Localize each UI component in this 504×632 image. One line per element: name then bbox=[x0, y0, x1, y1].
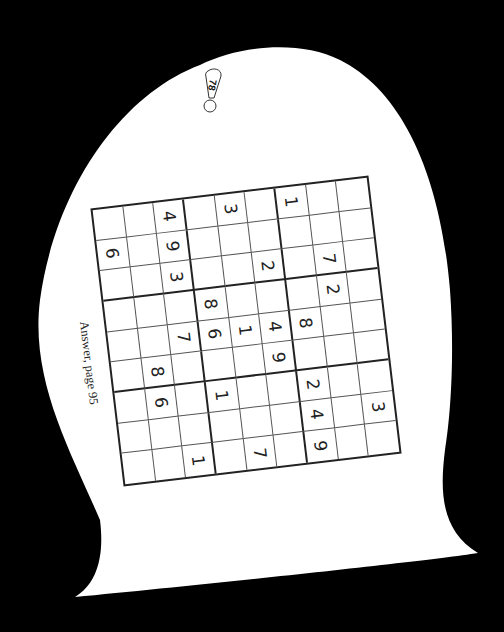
sudoku-cell[interactable] bbox=[122, 450, 156, 484]
sudoku-cell[interactable] bbox=[184, 196, 218, 230]
sudoku-cell[interactable] bbox=[118, 420, 152, 454]
sudoku-cell[interactable] bbox=[93, 207, 127, 241]
sudoku-cell[interactable]: 9 bbox=[157, 230, 191, 264]
sudoku-cell[interactable] bbox=[130, 264, 164, 298]
sudoku-cell[interactable] bbox=[127, 233, 161, 267]
sudoku-cell[interactable] bbox=[240, 405, 274, 439]
sudoku-cell[interactable]: 3 bbox=[161, 260, 195, 294]
sudoku-cell[interactable] bbox=[134, 294, 168, 328]
sudoku-cell[interactable] bbox=[245, 189, 279, 223]
cell-digit: 3 bbox=[166, 270, 187, 283]
sudoku-cell[interactable] bbox=[286, 276, 320, 310]
cell-digit: 2 bbox=[323, 283, 344, 296]
sudoku-cell[interactable] bbox=[179, 413, 213, 447]
sudoku-cell[interactable] bbox=[306, 181, 340, 215]
sudoku-cell[interactable]: 9 bbox=[263, 341, 297, 375]
sudoku-cell[interactable] bbox=[123, 203, 157, 237]
sudoku-cell[interactable] bbox=[218, 223, 252, 257]
sudoku-cell[interactable] bbox=[347, 269, 381, 303]
sudoku-cell[interactable]: 2 bbox=[297, 368, 331, 402]
sudoku-cell[interactable] bbox=[340, 208, 374, 242]
sudoku-cell[interactable] bbox=[351, 299, 385, 333]
sudoku-cell[interactable]: 4 bbox=[301, 398, 335, 432]
sudoku-cell[interactable] bbox=[283, 246, 317, 280]
sudoku-cell[interactable] bbox=[222, 253, 256, 287]
sudoku-cell[interactable] bbox=[267, 371, 301, 405]
cell-digit: 1 bbox=[188, 454, 209, 467]
sudoku-cell[interactable] bbox=[336, 178, 370, 212]
sudoku-cell[interactable] bbox=[111, 359, 145, 393]
sudoku-cell[interactable]: 6 bbox=[96, 237, 130, 271]
sudoku-cell[interactable] bbox=[164, 291, 198, 325]
cell-digit: 7 bbox=[249, 446, 270, 459]
sudoku-cell[interactable] bbox=[175, 382, 209, 416]
sudoku-cell[interactable] bbox=[213, 439, 247, 473]
cell-digit: 3 bbox=[220, 202, 241, 215]
sudoku-cell[interactable] bbox=[293, 337, 327, 371]
sudoku-cell[interactable]: 7 bbox=[168, 321, 202, 355]
cell-digit: 7 bbox=[173, 331, 194, 344]
sudoku-cell[interactable] bbox=[148, 416, 182, 450]
sudoku-cell[interactable]: 8 bbox=[195, 287, 229, 321]
cell-digit: 4 bbox=[265, 320, 286, 333]
sudoku-cell[interactable]: 9 bbox=[304, 428, 338, 462]
sudoku-cell[interactable] bbox=[324, 334, 358, 368]
sudoku-cell[interactable] bbox=[209, 409, 243, 443]
sudoku-cell[interactable] bbox=[279, 215, 313, 249]
sudoku-cell[interactable] bbox=[331, 394, 365, 428]
sudoku-cell[interactable]: 1 bbox=[206, 378, 240, 412]
cell-digit: 6 bbox=[102, 247, 123, 260]
cell-digit: 8 bbox=[201, 297, 222, 310]
cell-digit: 9 bbox=[310, 439, 331, 452]
sudoku-cell[interactable] bbox=[172, 352, 206, 386]
sudoku-cell[interactable] bbox=[270, 402, 304, 436]
sudoku-cell[interactable]: 8 bbox=[141, 355, 175, 389]
sudoku-cell[interactable]: 1 bbox=[275, 185, 309, 219]
sudoku-cell[interactable] bbox=[138, 325, 172, 359]
cell-digit: 1 bbox=[235, 324, 256, 337]
cell-digit: 7 bbox=[319, 252, 340, 265]
sudoku-cell[interactable] bbox=[107, 328, 141, 362]
sudoku-cell[interactable] bbox=[354, 330, 388, 364]
sudoku-cell[interactable]: 4 bbox=[259, 310, 293, 344]
cell-digit: 9 bbox=[163, 240, 184, 253]
cell-digit: 2 bbox=[303, 378, 324, 391]
sudoku-cell[interactable] bbox=[225, 283, 259, 317]
cell-digit: 1 bbox=[212, 389, 233, 402]
sudoku-cell[interactable] bbox=[152, 447, 186, 481]
sudoku-cell[interactable]: 3 bbox=[362, 391, 396, 425]
sudoku-cell[interactable]: 2 bbox=[252, 249, 286, 283]
sudoku-cell[interactable] bbox=[256, 280, 290, 314]
sudoku-cell[interactable] bbox=[202, 348, 236, 382]
sudoku-cell[interactable] bbox=[236, 375, 270, 409]
sudoku-cell[interactable] bbox=[274, 432, 308, 466]
sudoku-cell[interactable] bbox=[114, 389, 148, 423]
cell-digit: 1 bbox=[281, 195, 302, 208]
sudoku-cell[interactable] bbox=[328, 364, 362, 398]
sudoku-cell[interactable] bbox=[188, 226, 222, 260]
sudoku-cell[interactable] bbox=[191, 257, 225, 291]
sudoku-cell[interactable]: 7 bbox=[313, 242, 347, 276]
cell-digit: 6 bbox=[204, 328, 225, 341]
sudoku-cell[interactable] bbox=[343, 239, 377, 273]
sudoku-cell[interactable] bbox=[335, 425, 369, 459]
sudoku-cell[interactable]: 4 bbox=[154, 199, 188, 233]
sudoku-cell[interactable]: 8 bbox=[290, 307, 324, 341]
sudoku-cell[interactable] bbox=[104, 298, 138, 332]
sudoku-cell[interactable]: 2 bbox=[317, 273, 351, 307]
sudoku-cell[interactable]: 6 bbox=[198, 318, 232, 352]
cell-digit: 3 bbox=[368, 401, 389, 414]
sudoku-cell[interactable] bbox=[233, 344, 267, 378]
sudoku-cell[interactable]: 1 bbox=[229, 314, 263, 348]
sudoku-cell[interactable] bbox=[358, 360, 392, 394]
sudoku-cell[interactable]: 1 bbox=[183, 443, 217, 477]
sudoku-cell[interactable]: 7 bbox=[243, 436, 277, 470]
sudoku-cell[interactable]: 3 bbox=[214, 192, 248, 226]
sudoku-cell[interactable] bbox=[320, 303, 354, 337]
sudoku-cell[interactable] bbox=[249, 219, 283, 253]
sudoku-cell[interactable] bbox=[365, 421, 399, 455]
sudoku-cell[interactable]: 6 bbox=[145, 386, 179, 420]
sudoku-cell[interactable] bbox=[100, 268, 134, 302]
sudoku-cell[interactable] bbox=[309, 212, 343, 246]
cell-digit: 4 bbox=[307, 408, 328, 421]
